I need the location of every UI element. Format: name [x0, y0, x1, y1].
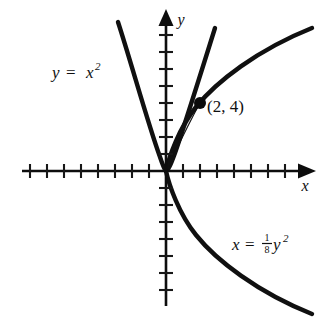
label-x-rhs-base: y: [271, 235, 281, 254]
figure-canvas: x y y = x 2 (2, 4) x = 1 8 y 2: [0, 0, 326, 321]
x-axis-label: x: [300, 177, 308, 194]
point-label: (2, 4): [207, 97, 244, 116]
label-fraction-denominator: 8: [265, 244, 270, 255]
graph-svg: x y y = x 2 (2, 4) x = 1 8 y 2: [0, 0, 326, 321]
label-curve-y-equals-x-squared: y = x 2: [50, 60, 101, 82]
label-fraction-numerator: 1: [265, 232, 270, 243]
label-x-equals-sign: =: [245, 235, 255, 254]
label-y-equals-sign: =: [66, 63, 76, 82]
label-x-rhs-exponent: 2: [283, 232, 289, 244]
label-y-lhs: y: [50, 63, 60, 82]
label-y-rhs-exponent: 2: [95, 60, 101, 72]
label-x-lhs: x: [231, 235, 240, 254]
label-y-rhs-base: x: [85, 63, 94, 82]
intersection-point-marker: [194, 97, 206, 109]
y-axis-label: y: [175, 11, 185, 29]
y-axis-arrow-icon: [159, 9, 174, 26]
label-curve-x-equals-eighth-y-squared: x = 1 8 y 2: [231, 232, 289, 255]
